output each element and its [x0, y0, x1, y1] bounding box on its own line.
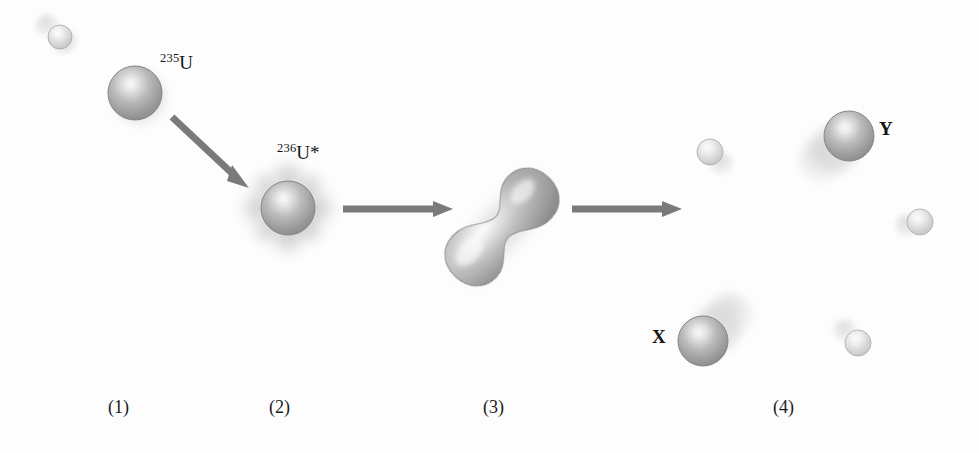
label-u235: 235U	[160, 52, 193, 72]
step-label-4: (4)	[773, 398, 794, 416]
incident-neutron	[48, 25, 72, 49]
fission-fragment-y	[824, 111, 874, 161]
step-label-3: (3)	[483, 398, 504, 416]
u235-nucleus-group	[108, 66, 166, 124]
incident-neutron-group	[35, 14, 76, 53]
fission-fragment-y-group	[799, 111, 874, 184]
u236-excited-group	[237, 157, 339, 259]
label-u235-mass-number: 235	[160, 51, 179, 65]
emitted-neutron-3-group	[833, 319, 871, 356]
step-label-1: (1)	[108, 398, 129, 416]
arrow-deform	[343, 201, 453, 217]
figure-canvas: 235U 236U* X Y (1) (2) (3) (4)	[0, 0, 979, 453]
label-u236-symbol: U*	[296, 142, 319, 163]
emitted-neutron-1	[697, 139, 723, 165]
step-label-2: (2)	[269, 398, 290, 416]
arrow-split	[572, 201, 682, 217]
u235-nucleus	[108, 66, 162, 120]
label-u236: 236U*	[277, 142, 320, 162]
emitted-neutron-2	[907, 209, 933, 235]
u236-nucleus	[261, 181, 315, 235]
label-fragment-y: Y	[879, 119, 893, 138]
emitted-neutron-1-group	[697, 139, 734, 176]
fission-fragment-x-group	[678, 293, 753, 366]
emitted-neutron-3	[845, 330, 871, 356]
label-fragment-x: X	[652, 327, 666, 346]
emitted-neutron-2-group	[895, 209, 933, 238]
deformed-nucleus-group	[432, 155, 571, 298]
fission-diagram-svg	[0, 0, 979, 453]
label-u236-mass-number: 236	[277, 141, 296, 155]
arrow-capture	[172, 117, 249, 188]
label-u235-symbol: U	[179, 52, 193, 73]
fission-fragment-x	[678, 316, 728, 366]
